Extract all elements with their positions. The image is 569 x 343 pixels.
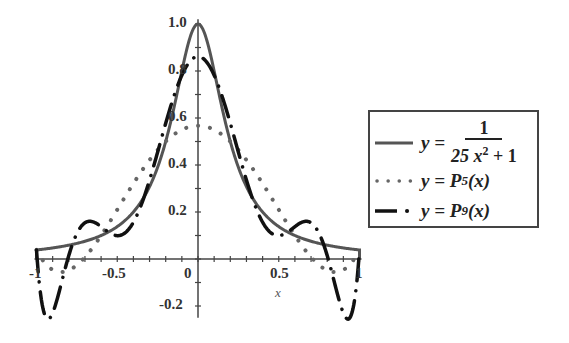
x-tick-1: 1 bbox=[355, 265, 363, 282]
func-name: P bbox=[450, 200, 462, 222]
y-tick-0-6: 0.6 bbox=[168, 108, 187, 125]
legend-entry-p9: y = P9(x) bbox=[370, 200, 490, 222]
legend-entry-p5: y = P5(x) bbox=[370, 170, 490, 192]
fraction: 1 25 x2 + 1 bbox=[451, 118, 517, 167]
y-tick-1-0: 1.0 bbox=[168, 14, 187, 31]
func-name: P bbox=[450, 170, 462, 192]
legend-prefix: y = bbox=[421, 200, 445, 222]
axes bbox=[35, 19, 362, 317]
legend: y = 1 25 x2 + 1 y = P5(x) y = P9(x) bbox=[368, 110, 539, 228]
legend-entry-runge: y = 1 25 x2 + 1 bbox=[370, 118, 517, 167]
exponent: 2 bbox=[483, 144, 489, 158]
x-tick-neg-0-5: -0.5 bbox=[102, 265, 126, 282]
x-tick-0: 0 bbox=[184, 265, 192, 282]
y-tick-0-2: 0.2 bbox=[168, 202, 187, 219]
x-axis-label: x bbox=[275, 285, 281, 301]
numerator: 1 bbox=[465, 118, 502, 140]
y-tick-0-4: 0.4 bbox=[168, 155, 187, 172]
denominator-base: 25 x bbox=[451, 146, 483, 166]
denominator: 25 x2 + 1 bbox=[451, 140, 517, 167]
dash-dot-line-sample-icon bbox=[375, 209, 413, 213]
y-tick-0-8: 0.8 bbox=[168, 61, 187, 78]
legend-prefix: y = bbox=[421, 170, 445, 192]
dotted-line-sample-icon bbox=[375, 179, 413, 183]
argument: (x) bbox=[468, 200, 490, 222]
denominator-tail: + 1 bbox=[493, 146, 517, 166]
x-tick-neg-1: -1 bbox=[29, 265, 42, 282]
solid-line-sample-icon bbox=[375, 141, 413, 145]
y-tick-neg-0-2: -0.2 bbox=[159, 296, 183, 313]
argument: (x) bbox=[468, 170, 490, 192]
x-tick-0-5: 0.5 bbox=[270, 265, 289, 282]
legend-prefix: y = bbox=[421, 132, 445, 154]
